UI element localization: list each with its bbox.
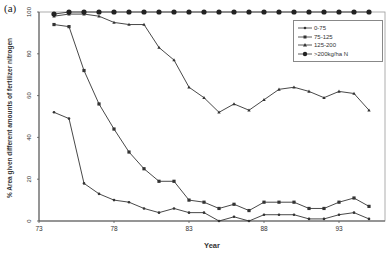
y-tick-label: 0 xyxy=(26,219,32,223)
data-point xyxy=(351,9,356,14)
data-point xyxy=(128,201,131,204)
data-point xyxy=(336,9,341,14)
data-point xyxy=(81,9,86,14)
data-point xyxy=(366,9,371,14)
y-tick-label: 100 xyxy=(26,6,32,17)
data-point xyxy=(83,182,86,185)
data-point xyxy=(246,9,251,14)
data-point xyxy=(308,218,311,221)
data-point xyxy=(291,9,296,14)
data-point xyxy=(156,9,161,14)
data-point xyxy=(143,207,146,210)
data-point xyxy=(127,150,130,153)
legend-label: 125-200 xyxy=(314,42,336,48)
data-point xyxy=(98,193,101,196)
x-tick-label: 93 xyxy=(335,225,343,232)
legend-item-125-200: 125-200 xyxy=(298,41,378,50)
data-point xyxy=(232,203,235,206)
data-point xyxy=(338,213,341,216)
legend-marker-triangle-icon xyxy=(298,42,312,48)
data-point xyxy=(368,218,371,221)
data-point xyxy=(173,207,176,210)
data-point xyxy=(278,213,281,216)
data-point xyxy=(186,9,191,14)
data-point xyxy=(172,180,175,183)
legend-marker-circle-icon xyxy=(298,51,312,57)
data-point xyxy=(97,102,100,105)
data-point xyxy=(277,201,280,204)
legend-item-over-200: >200kg/ha N xyxy=(298,50,378,59)
x-axis-label: Year xyxy=(204,241,220,250)
data-point xyxy=(248,220,251,223)
data-point xyxy=(218,220,221,223)
data-point xyxy=(203,211,206,214)
data-point xyxy=(171,9,176,14)
data-point xyxy=(201,9,206,14)
data-point xyxy=(276,9,281,14)
data-point xyxy=(188,211,191,214)
y-tick-label: 20 xyxy=(26,175,32,182)
data-point xyxy=(232,102,235,105)
x-tick-label: 73 xyxy=(35,225,43,232)
data-point xyxy=(353,211,356,214)
data-point xyxy=(262,201,265,204)
data-point xyxy=(96,9,101,14)
data-point xyxy=(113,199,116,202)
data-point xyxy=(352,196,355,199)
data-point xyxy=(306,9,311,14)
y-tick-label: 80 xyxy=(26,50,32,57)
data-point xyxy=(66,9,71,14)
legend: 0-75 75-125 125-200 >200kg/ha N xyxy=(293,20,383,62)
data-point xyxy=(261,9,266,14)
data-point xyxy=(322,207,325,210)
chart-figure: (a) 0204060801007378838893 Year % Area g… xyxy=(0,0,389,254)
data-point xyxy=(111,9,116,14)
data-point xyxy=(233,216,236,219)
legend-marker-square-icon xyxy=(298,34,312,40)
data-point xyxy=(51,11,56,16)
y-tick-label: 40 xyxy=(26,133,32,140)
data-point xyxy=(67,25,70,28)
data-point xyxy=(187,199,190,202)
data-point xyxy=(292,201,295,204)
data-point xyxy=(323,218,326,221)
data-point xyxy=(216,9,221,14)
legend-item-75-125: 75-125 xyxy=(298,33,378,42)
data-point xyxy=(158,211,161,214)
data-point xyxy=(52,23,55,26)
data-point xyxy=(68,117,71,120)
data-point xyxy=(126,9,131,14)
x-tick-label: 88 xyxy=(260,225,268,232)
data-point xyxy=(157,180,160,183)
y-tick-label: 60 xyxy=(26,92,32,99)
x-tick-label: 83 xyxy=(185,225,193,232)
legend-label: >200kg/ha N xyxy=(314,51,348,57)
data-point xyxy=(321,9,326,14)
legend-marker-diamond-icon xyxy=(298,25,312,31)
data-point xyxy=(263,213,266,216)
data-point xyxy=(337,201,340,204)
data-point xyxy=(82,69,85,72)
legend-label: 0-75 xyxy=(314,25,326,31)
data-point xyxy=(217,207,220,210)
data-point xyxy=(231,9,236,14)
data-point xyxy=(141,9,146,14)
data-point xyxy=(112,127,115,130)
data-point xyxy=(247,209,250,212)
y-axis-label: % Area given different amounts of fertil… xyxy=(6,38,14,198)
data-point xyxy=(367,205,370,208)
data-point xyxy=(293,213,296,216)
legend-item-0-75: 0-75 xyxy=(298,24,378,33)
x-tick-label: 78 xyxy=(110,225,118,232)
data-point xyxy=(142,167,145,170)
data-point xyxy=(307,207,310,210)
legend-label: 75-125 xyxy=(314,34,333,40)
data-point xyxy=(202,201,205,204)
data-point xyxy=(53,111,56,114)
